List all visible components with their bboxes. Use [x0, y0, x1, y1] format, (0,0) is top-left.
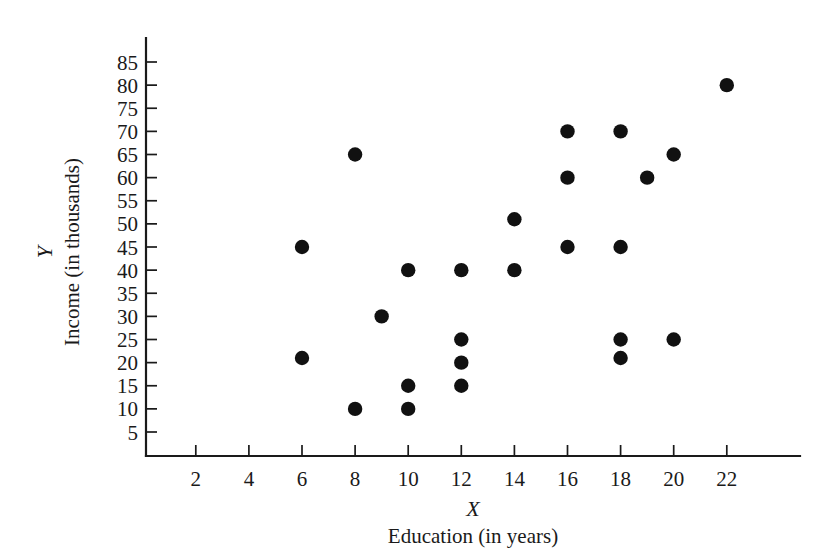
data-point [720, 78, 734, 92]
data-point [640, 170, 654, 184]
data-points-layer [295, 78, 734, 416]
data-point [454, 379, 468, 393]
y-tick-label: 20 [117, 351, 138, 375]
y-tick-label: 70 [117, 120, 138, 144]
y-tick-label: 40 [117, 259, 138, 283]
y-tick-label: 65 [117, 143, 138, 167]
data-point [560, 124, 574, 138]
y-tick-label: 50 [117, 212, 138, 236]
y-tick-label: 60 [117, 166, 138, 190]
data-point [613, 351, 627, 365]
data-point [507, 212, 521, 226]
x-tick-label: 4 [244, 467, 255, 491]
data-point [348, 147, 362, 161]
data-point [613, 240, 627, 254]
y-tick-label: 85 [117, 51, 138, 75]
y-tick-label: 80 [117, 74, 138, 98]
y-axis-title: Income (in thousands) [60, 158, 84, 346]
y-tick-label: 55 [117, 189, 138, 213]
data-point [401, 379, 415, 393]
data-point [613, 332, 627, 346]
y-tick-label: 35 [117, 282, 138, 306]
data-point [560, 240, 574, 254]
y-tick-label: 45 [117, 236, 138, 260]
data-point [667, 332, 681, 346]
x-tick-label: 10 [398, 467, 419, 491]
x-axis-ticks: 246810121416182022 [191, 445, 738, 491]
x-tick-label: 8 [350, 467, 361, 491]
data-point [454, 263, 468, 277]
x-axis-variable-label: X [465, 496, 481, 521]
scatter-plot-figure: 510152025303540455055606570758085 246810… [0, 0, 825, 549]
y-tick-label: 30 [117, 305, 138, 329]
y-tick-label: 75 [117, 97, 138, 121]
data-point [507, 263, 521, 277]
data-point [295, 351, 309, 365]
y-axis-ticks: 510152025303540455055606570758085 [117, 51, 157, 445]
scatter-plot-svg: 510152025303540455055606570758085 246810… [0, 0, 825, 549]
x-tick-label: 20 [663, 467, 684, 491]
x-axis-title: Education (in years) [388, 524, 558, 548]
x-tick-label: 14 [504, 467, 526, 491]
y-axis-variable-label: Y [32, 243, 57, 258]
data-point [454, 355, 468, 369]
x-tick-label: 16 [557, 467, 578, 491]
axes-lines [146, 38, 800, 456]
data-point [401, 263, 415, 277]
y-tick-label: 25 [117, 328, 138, 352]
y-tick-label: 5 [128, 421, 139, 445]
data-point [374, 309, 388, 323]
x-tick-label: 2 [191, 467, 202, 491]
data-point [454, 332, 468, 346]
x-tick-label: 12 [451, 467, 472, 491]
data-point [295, 240, 309, 254]
data-point [613, 124, 627, 138]
x-tick-label: 6 [297, 467, 308, 491]
data-point [560, 170, 574, 184]
y-tick-label: 10 [117, 397, 138, 421]
data-point [348, 402, 362, 416]
data-point [667, 147, 681, 161]
x-tick-label: 22 [716, 467, 737, 491]
data-point [401, 402, 415, 416]
y-tick-label: 15 [117, 374, 138, 398]
x-tick-label: 18 [610, 467, 631, 491]
